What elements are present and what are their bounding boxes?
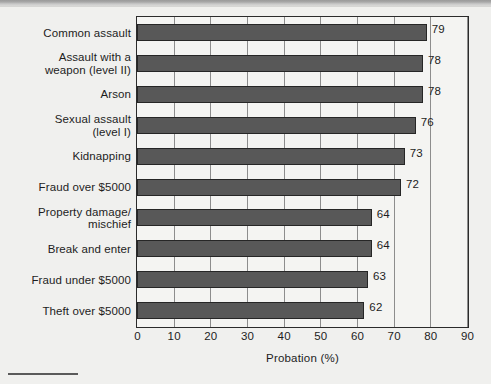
x-tick-label-80: 80 — [424, 330, 437, 342]
category-label-line: (level I) — [3, 126, 131, 139]
x-axis-ticks: 0102030405060708090 — [136, 330, 469, 346]
bar — [137, 179, 401, 196]
category-label-line: Property damage/ — [3, 206, 131, 219]
category-label-line: Fraud over $5000 — [3, 181, 131, 194]
x-tick-label-50: 50 — [314, 330, 327, 342]
bar-value-label: 64 — [377, 208, 390, 220]
bar-row: 73 — [137, 141, 467, 172]
category-label: Fraud under $5000 — [3, 274, 131, 287]
category-label: Theft over $5000 — [3, 305, 131, 318]
category-label-line: Break and enter — [3, 243, 131, 256]
bar-value-label: 76 — [421, 116, 434, 128]
x-tick-label-70: 70 — [388, 330, 401, 342]
bar-value-label: 63 — [373, 270, 386, 282]
bar — [137, 302, 364, 319]
category-label-line: Arson — [3, 88, 131, 101]
bar — [137, 209, 372, 226]
category-label: Common assault — [3, 27, 131, 40]
bar-chart-figure: Common assaultAssault with aweapon (leve… — [0, 0, 491, 384]
bar — [137, 55, 423, 72]
page-edge-line — [0, 6, 491, 7]
bar-row: 76 — [137, 110, 467, 141]
category-label-line: weapon (level II) — [3, 64, 131, 77]
bar-row: 62 — [137, 295, 467, 326]
category-label: Break and enter — [3, 243, 131, 256]
bar-row: 63 — [137, 264, 467, 295]
bar — [137, 24, 427, 41]
category-label: Kidnapping — [3, 150, 131, 163]
bar-value-label: 73 — [410, 147, 423, 159]
bar-row: 78 — [137, 48, 467, 79]
bar — [137, 148, 405, 165]
category-axis-labels: Common assaultAssault with aweapon (leve… — [0, 16, 131, 328]
category-label: Assault with aweapon (level II) — [3, 51, 131, 76]
bar-value-label: 72 — [406, 178, 419, 190]
x-tick-label-90: 90 — [461, 330, 474, 342]
bar-value-label: 78 — [428, 54, 441, 66]
bar-row: 64 — [137, 233, 467, 264]
bar — [137, 240, 372, 257]
category-label-line: Sexual assault — [3, 113, 131, 126]
bar-row: 64 — [137, 202, 467, 233]
x-tick-label-40: 40 — [278, 330, 291, 342]
x-tick-label-10: 10 — [168, 330, 181, 342]
gridline-90 — [467, 17, 468, 327]
footer-rule — [8, 373, 78, 375]
x-axis-label: Probation (%) — [136, 352, 469, 364]
category-label: Fraud over $5000 — [3, 181, 131, 194]
bar-value-label: 79 — [432, 23, 445, 35]
category-label-line: Theft over $5000 — [3, 305, 131, 318]
category-label: Arson — [3, 88, 131, 101]
bar-row: 78 — [137, 79, 467, 110]
category-label-line: Common assault — [3, 27, 131, 40]
x-tick-label-30: 30 — [241, 330, 254, 342]
bar-row: 72 — [137, 172, 467, 203]
bar — [137, 117, 416, 134]
category-label-line: Kidnapping — [3, 150, 131, 163]
category-label-line: mischief — [3, 218, 131, 231]
bar-value-label: 62 — [369, 301, 382, 313]
bar-value-label: 78 — [428, 85, 441, 97]
x-tick-label-20: 20 — [204, 330, 217, 342]
x-tick-label-60: 60 — [351, 330, 364, 342]
bar-value-label: 64 — [377, 239, 390, 251]
category-label-line: Fraud under $5000 — [3, 274, 131, 287]
bar-row: 79 — [137, 17, 467, 48]
category-label-line: Assault with a — [3, 51, 131, 64]
category-label: Sexual assault(level I) — [3, 113, 131, 138]
category-label: Property damage/mischief — [3, 206, 131, 231]
bar — [137, 271, 368, 288]
x-tick-label-0: 0 — [134, 330, 141, 342]
plot-area: 79787876737264646362 — [136, 16, 469, 328]
bar — [137, 86, 423, 103]
